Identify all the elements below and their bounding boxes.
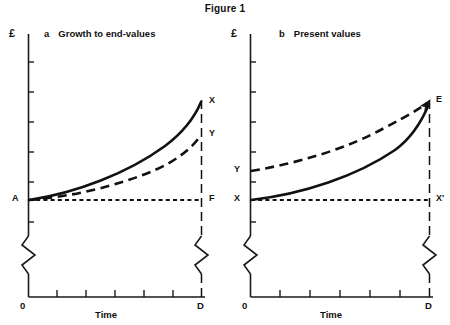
- point-label-a-a: A: [12, 194, 19, 203]
- x-axis-title-a: Time: [95, 309, 117, 320]
- point-label-y-b: Y: [234, 165, 240, 174]
- point-label-e-b: E: [436, 95, 442, 104]
- x-origin-label-a: 0: [20, 300, 25, 311]
- chart-panel-b: £ bPresent values: [225, 0, 450, 325]
- x-end-label-b: D: [425, 300, 432, 311]
- x-axis-title-b: Time: [320, 309, 342, 320]
- y-axis-break-a: [22, 236, 35, 274]
- point-label-f-a: F: [209, 194, 215, 203]
- y-axis-break-b: [244, 236, 257, 274]
- y-axis-ticks-a: [29, 62, 35, 222]
- d-vertical-break-a: [195, 236, 208, 274]
- chart-a-canvas: [0, 0, 225, 325]
- present-value-curve-ye: [251, 103, 427, 171]
- chart-b-canvas: [225, 0, 450, 325]
- point-label-x-a: X: [209, 96, 215, 105]
- d-vertical-break-b: [423, 236, 436, 274]
- x-axis-ticks-a: [57, 290, 173, 297]
- growth-curve-ay: [29, 135, 201, 200]
- x-axis-ticks-b: [280, 290, 400, 297]
- x-origin-label-b: 0: [242, 300, 247, 311]
- point-label-x-b: X: [234, 194, 240, 203]
- point-label-xprime-b: X': [436, 194, 444, 203]
- y-axis-ticks-b: [251, 62, 257, 222]
- x-end-label-a: D: [197, 300, 204, 311]
- chart-panel-a: £ aGrowth to end-values: [0, 0, 225, 325]
- point-label-y-a: Y: [209, 129, 215, 138]
